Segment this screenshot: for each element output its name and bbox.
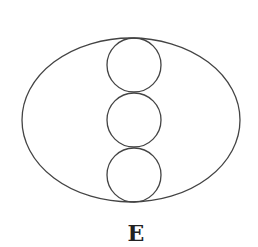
outer-ellipse <box>22 38 240 202</box>
diagram-figure <box>0 0 258 247</box>
circle-top <box>107 38 161 92</box>
circle-middle <box>107 93 161 147</box>
figure-label: E <box>0 220 258 246</box>
circle-bottom <box>107 148 161 202</box>
